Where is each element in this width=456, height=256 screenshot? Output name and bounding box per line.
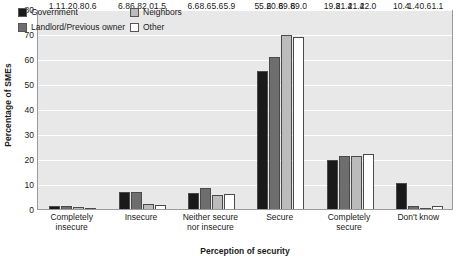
legend-swatch-icon [18, 23, 27, 32]
bar-value-label: 1.1 [431, 2, 443, 11]
bar-rect [85, 208, 96, 210]
x-axis-label-line1: Completely [50, 212, 93, 222]
bar-rect [257, 71, 268, 209]
x-axis-category-labels: CompletelyinsecureInsecureNeither secure… [37, 212, 453, 242]
legend-item-label: Neighbors [143, 7, 182, 17]
bar[interactable]: 6.8 [119, 11, 130, 209]
bar[interactable]: 0.6 [420, 11, 431, 209]
x-axis-label-line1: Neither secure [183, 212, 238, 222]
bar-rect [281, 35, 292, 210]
bar-group: 6.68.65.65.9 [188, 11, 235, 209]
x-axis-label-line2: secure [314, 222, 383, 232]
bar-rect [224, 194, 235, 209]
bar-rect [155, 205, 166, 209]
bar[interactable]: 19.8 [327, 11, 338, 209]
bar-group: 1.11.20.80.6 [49, 11, 96, 209]
legend-item-label: Government [31, 7, 78, 17]
bar[interactable]: 21.4 [339, 11, 350, 209]
legend-item[interactable]: Government [18, 5, 130, 19]
chart-figure: Percentage of SMEs 80706050403020100 1.1… [0, 0, 456, 256]
chart-legend: GovernmentNeighborsLandlord/Previous own… [18, 5, 238, 34]
bar-rect [351, 156, 362, 210]
bar[interactable]: 1.2 [61, 11, 72, 209]
bar-rect [420, 208, 431, 210]
bar[interactable]: 10.4 [396, 11, 407, 209]
bar[interactable]: 1.5 [155, 11, 166, 209]
bar[interactable]: 8.6 [200, 11, 211, 209]
bar-value-label: 1.4 [407, 2, 419, 11]
bar-rect [212, 195, 223, 209]
bar[interactable]: 1.1 [432, 11, 443, 209]
legend-item-label: Other [143, 22, 164, 32]
bar-value-label: 0.6 [419, 2, 431, 11]
bar[interactable]: 5.9 [224, 11, 235, 209]
y-tick-label: 0 [29, 205, 34, 215]
bar[interactable]: 0.6 [85, 11, 96, 209]
bar-rect [363, 154, 374, 209]
bar-group: 10.41.40.61.1 [396, 11, 443, 209]
bar-rect [119, 192, 130, 209]
x-axis-label: Insecure [106, 212, 175, 222]
y-tick-label: 30 [25, 130, 34, 140]
bar[interactable]: 69.8 [281, 11, 292, 209]
bar[interactable]: 55.2 [257, 11, 268, 209]
bars-layer: 1.11.20.80.66.86.82.01.56.68.65.65.955.2… [38, 11, 452, 209]
bar[interactable]: 21.4 [351, 11, 362, 209]
legend-swatch-icon [130, 23, 139, 32]
bar-rect [432, 206, 443, 209]
legend-swatch-icon [18, 8, 27, 17]
bar-rect [293, 37, 304, 210]
bar[interactable]: 1.4 [408, 11, 419, 209]
x-axis-label-line1: Insecure [125, 212, 158, 222]
bar-rect [339, 156, 350, 210]
bar-rect [408, 206, 419, 210]
x-axis-title: Perception of security [37, 246, 453, 256]
legend-item[interactable]: Landlord/Previous owner [18, 20, 130, 34]
legend-item[interactable]: Other [130, 20, 238, 34]
bar[interactable]: 22.0 [363, 11, 374, 209]
bar[interactable]: 60.8 [269, 11, 280, 209]
bar-rect [200, 188, 211, 210]
legend-item[interactable]: Neighbors [130, 5, 238, 19]
bar-rect [269, 57, 280, 209]
y-axis-tick-labels: 80706050403020100 [14, 10, 34, 210]
bar-rect [396, 183, 407, 209]
bar-rect [73, 207, 84, 209]
bar-rect [49, 206, 60, 209]
bar-group: 19.821.421.422.0 [327, 11, 374, 209]
bar-rect [61, 206, 72, 209]
y-tick-label: 50 [25, 80, 34, 90]
x-axis-label: Completelysecure [314, 212, 383, 232]
x-axis-label-line1: Secure [266, 212, 293, 222]
y-axis-title-text: Percentage of SMEs [3, 63, 13, 147]
bar-rect [143, 204, 154, 209]
x-axis-label-line2: insecure [37, 222, 106, 232]
bar[interactable]: 6.6 [188, 11, 199, 209]
bar-value-label: 22.0 [360, 2, 377, 11]
bar-rect [188, 193, 199, 210]
x-axis-label-line1: Completely [328, 212, 371, 222]
x-axis-label: Secure [245, 212, 314, 222]
plot-area: 1.11.20.80.66.86.82.01.56.68.65.65.955.2… [37, 10, 453, 210]
bar-value-label: 69.0 [290, 2, 307, 11]
y-tick-label: 40 [25, 105, 34, 115]
y-tick-label: 10 [25, 180, 34, 190]
x-axis-label: Don't know [384, 212, 453, 222]
bar[interactable]: 5.6 [212, 11, 223, 209]
legend-item-label: Landlord/Previous owner [31, 22, 125, 32]
bar[interactable]: 69.0 [293, 11, 304, 209]
legend-swatch-icon [130, 8, 139, 17]
bar-rect [327, 160, 338, 210]
bar-group: 55.260.869.869.0 [257, 11, 304, 209]
bar[interactable]: 0.8 [73, 11, 84, 209]
x-axis-label-line1: Don't know [397, 212, 439, 222]
x-axis-label: Completelyinsecure [37, 212, 106, 232]
bar[interactable]: 2.0 [143, 11, 154, 209]
bar[interactable]: 1.1 [49, 11, 60, 209]
bar-rect [131, 192, 142, 209]
bar-group: 6.86.82.01.5 [119, 11, 166, 209]
bar[interactable]: 6.8 [131, 11, 142, 209]
y-tick-label: 60 [25, 55, 34, 65]
x-axis-label-line2: nor insecure [176, 222, 245, 232]
x-axis-label: Neither securenor insecure [176, 212, 245, 232]
